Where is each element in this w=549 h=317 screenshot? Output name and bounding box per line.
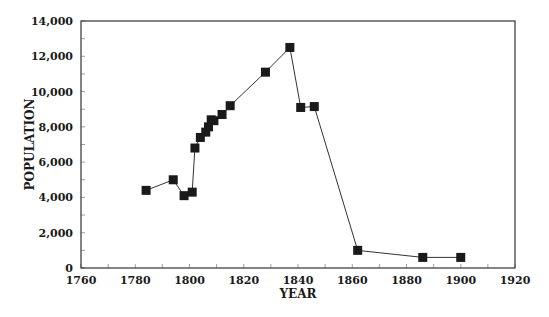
data-point-marker [188, 188, 197, 197]
y-tick-label: 8,000 [39, 121, 74, 134]
x-tick-label: 1920 [500, 274, 531, 287]
y-tick-label: 2,000 [39, 227, 74, 240]
y-tick-label: 14,000 [31, 15, 73, 28]
x-axis: 176017801800182018401860188019001920 [66, 274, 531, 287]
x-tick-label: 1820 [228, 274, 259, 287]
population-chart: 176017801800182018401860188019001920 02,… [0, 0, 549, 317]
data-point-marker [190, 144, 199, 153]
y-axis-title: POPULATION [23, 98, 37, 190]
x-tick-label: 1900 [445, 274, 476, 287]
y-tick-label: 0 [65, 262, 73, 275]
data-point-marker [180, 191, 189, 200]
plot-frame [81, 21, 515, 268]
x-tick-label: 1760 [66, 274, 97, 287]
x-tick-label: 1840 [283, 274, 314, 287]
data-point-marker [209, 116, 218, 125]
x-tick-label: 1880 [391, 274, 422, 287]
x-tick-label: 1860 [337, 274, 368, 287]
data-point-marker [261, 68, 270, 77]
data-point-marker [310, 102, 319, 111]
data-point-marker [285, 43, 294, 52]
data-point-marker [142, 186, 151, 195]
y-tick-label: 10,000 [31, 86, 73, 99]
y-tick-label: 4,000 [39, 191, 74, 204]
minor-ticks [81, 21, 515, 268]
data-point-marker [353, 246, 362, 255]
data-point-marker [169, 175, 178, 184]
x-axis-title: YEAR [279, 287, 318, 301]
y-axis: 02,0004,0006,0008,00010,00012,00014,000 [31, 15, 73, 275]
data-point-marker [296, 103, 305, 112]
data-markers [142, 43, 466, 262]
y-tick-label: 6,000 [39, 156, 74, 169]
x-tick-label: 1800 [174, 274, 205, 287]
data-point-marker [456, 253, 465, 262]
y-tick-label: 12,000 [31, 50, 73, 63]
x-tick-label: 1780 [120, 274, 151, 287]
data-point-marker [418, 253, 427, 262]
data-point-marker [218, 110, 227, 119]
data-point-marker [226, 101, 235, 110]
